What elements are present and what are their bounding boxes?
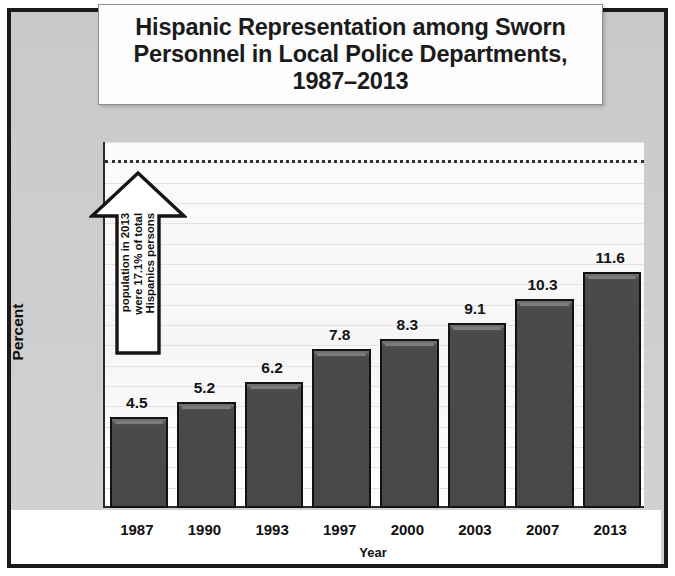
bar-value-label: 4.5 (126, 394, 148, 412)
x-axis-tick-label: 2000 (391, 521, 424, 538)
bar-value-label: 6.2 (261, 359, 283, 377)
bar-highlight (250, 386, 298, 389)
bar (312, 349, 370, 508)
y-axis: 0123456789101112131415161718 (0, 0, 103, 576)
annotation-line-2: were 17.1% of total (132, 213, 144, 315)
bar (110, 417, 168, 509)
bar (380, 339, 438, 508)
x-axis-tick-label: 1990 (188, 521, 221, 538)
bar (515, 299, 573, 508)
x-axis-tick-label: 1993 (255, 521, 288, 538)
chart-figure: Hispanic Representation among Sworn Pers… (0, 0, 675, 576)
annotation-text: Hispanics persons were 17.1% of total po… (118, 213, 158, 353)
chart-title-box: Hispanic Representation among Sworn Pers… (98, 4, 603, 105)
bar-value-label: 9.1 (464, 300, 486, 318)
bar-highlight (115, 421, 163, 424)
bar-value-label: 8.3 (397, 316, 419, 334)
bar-highlight (588, 276, 636, 279)
bar-highlight (317, 353, 365, 356)
bar-highlight (182, 406, 230, 409)
bar-highlight (453, 327, 501, 330)
bar (583, 272, 641, 508)
bar-value-label: 10.3 (527, 276, 557, 294)
annotation-line-3: population in 2013 (119, 213, 131, 312)
x-axis-tick-label: 2007 (526, 521, 559, 538)
reference-line-17-1 (105, 160, 644, 163)
bar-value-label: 7.8 (329, 326, 351, 344)
annotation-line-1: Hispanics persons (144, 213, 156, 314)
bar-highlight (385, 343, 433, 346)
bar-value-label: 11.6 (596, 249, 625, 267)
bar-value-label: 5.2 (194, 379, 216, 397)
x-axis-tick-label: 1997 (323, 521, 356, 538)
x-axis-tick-label: 1987 (120, 521, 153, 538)
x-axis-tick-label: 2003 (458, 521, 491, 538)
bar (245, 382, 303, 508)
x-axis-tick-label: 2013 (594, 521, 627, 538)
gridline (105, 142, 644, 143)
bar-highlight (520, 303, 568, 306)
x-axis-title: Year (359, 545, 386, 560)
page-title: Hispanic Representation among Sworn Pers… (128, 14, 574, 96)
bar (448, 323, 506, 508)
bar (177, 402, 235, 508)
annotation-arrow: Hispanics persons were 17.1% of total po… (89, 170, 187, 356)
